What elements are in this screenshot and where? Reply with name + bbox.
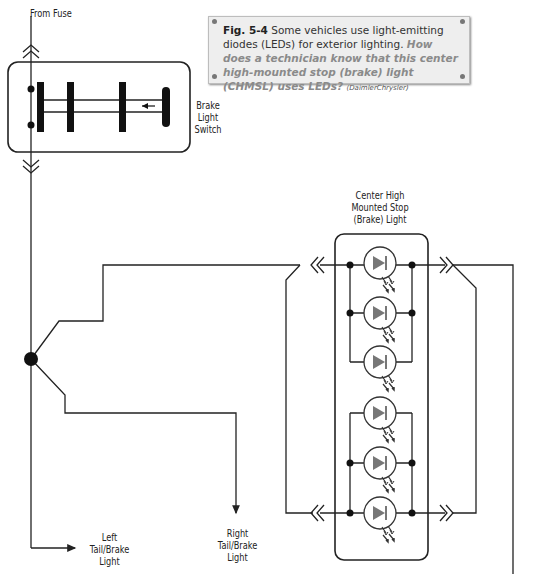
screw-icon xyxy=(212,74,217,79)
brake-switch-label: BrakeLightSwitch xyxy=(192,100,225,136)
screw-icon xyxy=(460,19,465,24)
screw-icon xyxy=(212,19,217,24)
chmsl-label: Center HighMounted Stop(Brake) Light xyxy=(339,190,421,226)
caption-credit: (DaimlerChrysler) xyxy=(346,84,408,92)
led-icon xyxy=(364,247,396,292)
led-icon xyxy=(364,397,396,442)
from-fuse-label: From Fuse xyxy=(30,8,87,20)
led-icon xyxy=(364,346,396,391)
right-tail-label: RightTail/BrakeLight xyxy=(215,528,260,564)
splice-junction xyxy=(24,352,38,366)
left-tail-label: LeftTail/BrakeLight xyxy=(87,532,132,568)
figure-caption: Fig. 5-4 Some vehicles use light-emittin… xyxy=(208,16,470,84)
screw-icon xyxy=(460,74,465,79)
led-icon xyxy=(364,297,396,342)
led-icon xyxy=(364,447,396,492)
led-icon xyxy=(364,497,396,542)
figure-label: Fig. 5-4 xyxy=(223,24,268,36)
